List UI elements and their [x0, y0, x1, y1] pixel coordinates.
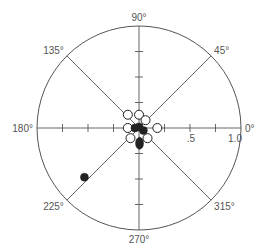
angle-label: 45° [214, 45, 229, 56]
filled-circle-marker [139, 127, 147, 135]
radius-labels: .51.0 [187, 133, 243, 144]
open-circle-marker [123, 110, 132, 119]
radius-label: 1.0 [228, 133, 242, 144]
angle-label: 270° [129, 234, 150, 245]
angle-label: 315° [214, 201, 235, 212]
spoke-line [139, 56, 211, 128]
open-circle-marker [143, 134, 152, 143]
open-circle-marker [141, 116, 150, 125]
angle-label: 90° [131, 12, 146, 23]
open-circle-marker [153, 124, 162, 133]
angle-label: 225° [43, 201, 64, 212]
filled-circle-marker [80, 173, 88, 181]
angle-label: 180° [12, 123, 33, 134]
polar-plot: 0°45°90°135°180°225°270°315° .51.0 [0, 0, 263, 252]
angle-label: 135° [43, 45, 64, 56]
open-circle-marker [126, 134, 135, 143]
filled-ellipse-marker [136, 137, 144, 149]
radius-label: .5 [187, 133, 196, 144]
angle-label: 0° [245, 123, 255, 134]
